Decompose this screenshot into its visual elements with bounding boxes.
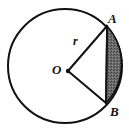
center-point-dot bbox=[66, 69, 70, 73]
label-center-o: O bbox=[52, 63, 61, 76]
shaded-segment bbox=[106, 26, 121, 103]
label-point-a: A bbox=[108, 12, 117, 25]
label-radius-r: r bbox=[73, 35, 78, 47]
geometry-figure: A B O r bbox=[0, 0, 129, 129]
chord-line-ab bbox=[106, 26, 107, 103]
circle-outline bbox=[8, 9, 122, 123]
label-point-b: B bbox=[110, 105, 119, 118]
